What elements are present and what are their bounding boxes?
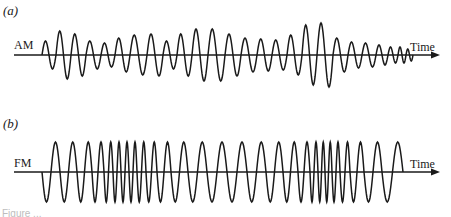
am-panel: [14, 23, 440, 87]
am-signal-label: AM: [14, 38, 33, 53]
fm-panel: [14, 142, 440, 202]
am-fm-diagram: [0, 0, 451, 217]
panel-label-a: (a): [3, 3, 18, 19]
fm-signal-label: FM: [14, 156, 31, 171]
panel-label-b: (b): [3, 116, 18, 132]
figure-caption-fragment: Figure ...: [2, 208, 41, 217]
fm-time-label: Time: [410, 157, 435, 172]
am-time-label: Time: [410, 40, 435, 55]
